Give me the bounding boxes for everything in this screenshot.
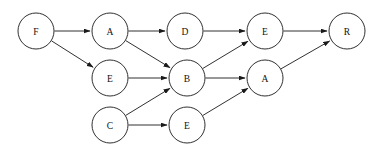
node-a-top[interactable]: A (92, 13, 128, 49)
node-e-bottom[interactable]: E (169, 107, 205, 143)
node-e-bottom-circle[interactable] (169, 107, 205, 143)
node-f-source-circle[interactable] (18, 13, 54, 49)
diagram-canvas: FADEREBACE (0, 0, 374, 153)
node-a-top-circle[interactable] (92, 13, 128, 49)
edge-b-to-e-top (203, 41, 248, 68)
node-a-middle-right[interactable]: A (247, 60, 283, 96)
node-r-sink[interactable]: R (329, 13, 365, 49)
edge-e-bottom-to-a-middle-right (203, 88, 248, 115)
node-b-middle-circle[interactable] (169, 60, 205, 96)
node-layer: FADEREBACE (18, 13, 365, 143)
node-d-top[interactable]: D (167, 13, 203, 49)
edge-c-to-b (126, 88, 170, 115)
edge-a-top-to-b (126, 41, 170, 68)
node-e-middle-left[interactable]: E (92, 60, 128, 96)
node-e-top-circle[interactable] (247, 13, 283, 49)
node-f-source[interactable]: F (18, 13, 54, 49)
node-a-middle-right-circle[interactable] (247, 60, 283, 96)
node-e-top[interactable]: E (247, 13, 283, 49)
node-c-bottom[interactable]: C (92, 107, 128, 143)
node-r-sink-circle[interactable] (329, 13, 365, 49)
node-e-middle-left-circle[interactable] (92, 60, 128, 96)
edge-f-to-e-middle-left (52, 41, 94, 67)
node-b-middle[interactable]: B (169, 60, 205, 96)
edge-a-middle-right-to-r (281, 41, 330, 69)
node-d-top-circle[interactable] (167, 13, 203, 49)
directed-graph: FADEREBACE (0, 0, 374, 153)
node-c-bottom-circle[interactable] (92, 107, 128, 143)
